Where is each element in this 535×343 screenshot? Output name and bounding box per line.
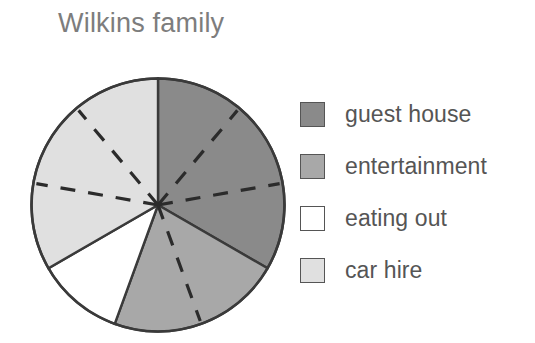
legend-item-eating-out[interactable]: eating out (300, 192, 532, 244)
pie-plot-area (22, 58, 298, 343)
legend-swatch-guest-house (300, 102, 325, 127)
legend-swatch-car-hire (300, 258, 325, 283)
legend-label-guest-house: guest house (345, 101, 471, 128)
legend-item-guest-house[interactable]: guest house (300, 88, 532, 140)
legend-swatch-eating-out (300, 206, 325, 231)
pie-svg (22, 58, 298, 343)
pie-chart-figure: Wilkins family guest house entertainment… (0, 0, 535, 343)
chart-title: Wilkins family (58, 8, 224, 39)
legend-label-eating-out: eating out (345, 205, 447, 232)
legend-label-entertainment: entertainment (345, 153, 487, 180)
chart-legend: guest house entertainment eating out car… (300, 88, 532, 296)
legend-item-car-hire[interactable]: car hire (300, 244, 532, 296)
legend-label-car-hire: car hire (345, 257, 423, 284)
legend-item-entertainment[interactable]: entertainment (300, 140, 532, 192)
legend-swatch-entertainment (300, 154, 325, 179)
